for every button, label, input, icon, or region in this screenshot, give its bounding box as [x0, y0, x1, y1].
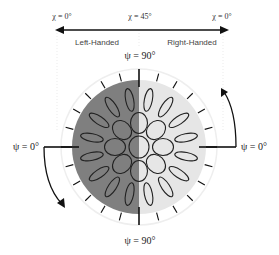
chi-left-label: χ = 0° — [52, 13, 71, 21]
right-handed-label: Right-Handed — [167, 39, 216, 47]
tick-mark — [187, 195, 193, 201]
tick-mark — [205, 165, 213, 167]
tick-mark — [66, 165, 74, 167]
diagram-canvas — [0, 0, 279, 255]
left-handed-label: Left-Handed — [75, 39, 119, 47]
tick-mark — [119, 213, 121, 221]
tick-mark — [173, 206, 177, 213]
tick-mark — [157, 74, 159, 82]
tick-mark — [198, 109, 205, 113]
tick-mark — [173, 81, 177, 88]
polarization-diagram: χ = 0° χ = 45° χ = 0° Left-Handed Right-… — [0, 0, 279, 255]
psi-top-label: ψ = 90° — [125, 51, 156, 61]
psi-right-label: ψ = 0° — [241, 142, 267, 152]
chi-axis-arrow — [55, 26, 229, 34]
tick-mark — [101, 206, 105, 213]
chi-center-label: χ = 45° — [128, 13, 151, 21]
arrowhead-left-icon — [55, 26, 64, 34]
tick-mark — [66, 127, 74, 129]
tick-mark — [73, 181, 80, 185]
tick-mark — [101, 81, 105, 88]
psi-bottom-label: ψ = 90° — [125, 236, 156, 246]
tick-mark — [85, 195, 91, 201]
psi-left-label: ψ = 0° — [13, 142, 39, 152]
tick-mark — [157, 213, 159, 221]
chi-right-label: χ = 0° — [212, 13, 231, 21]
tick-mark — [85, 93, 91, 99]
tick-mark — [187, 93, 193, 99]
arrowhead-right-icon — [220, 26, 229, 34]
tick-mark — [119, 74, 121, 82]
arrowhead-up-icon — [221, 88, 228, 97]
tick-mark — [205, 127, 213, 129]
tick-mark — [198, 181, 205, 185]
tick-mark — [73, 109, 80, 113]
